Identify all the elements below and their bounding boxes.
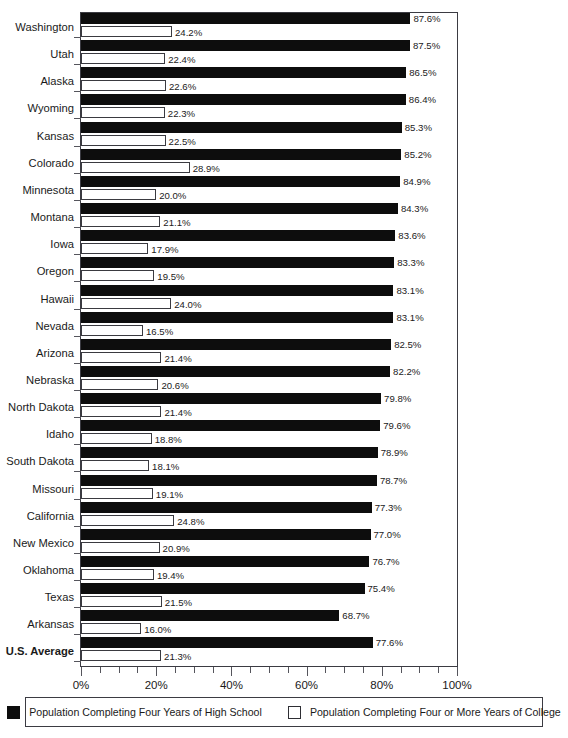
bar-value-high-school: 85.3% [405,122,432,133]
x-axis-minor-tick [401,667,402,673]
legend-label-high-school: Population Completing Four Years of High… [29,706,262,719]
category-label: Arizona [0,347,74,360]
bar-value-high-school: 86.4% [409,94,436,105]
category-label: Nebraska [0,374,74,387]
x-axis-minor-tick [363,667,364,673]
category-tick [74,363,81,364]
category-tick [74,499,81,500]
bar-value-high-school: 83.3% [397,257,424,268]
bar-college [81,298,171,309]
bar-high-school [81,339,391,350]
category-tick [74,661,81,662]
bar-high-school [81,285,393,296]
category-tick [74,37,81,38]
chart-row: Alaska86.5%22.6% [0,67,568,94]
chart-row: North Dakota79.8%21.4% [0,393,568,420]
bar-value-high-school: 83.1% [396,312,423,323]
category-tick [74,417,81,418]
bar-value-college: 22.4% [168,54,195,65]
bar-value-college: 16.5% [146,326,173,337]
x-axis-major-tick [231,667,232,676]
bar-college [81,650,161,661]
category-label: North Dakota [0,401,74,414]
chart-row: Minnesota84.9%20.0% [0,176,568,203]
x-axis-tick-label: 60% [295,678,318,692]
x-axis-minor-tick [325,667,326,673]
bar-high-school [81,556,369,567]
category-tick [74,200,81,201]
bar-high-school [81,94,406,105]
category-label: Nevada [0,320,74,333]
x-axis-minor-tick [137,667,138,673]
category-tick [74,634,81,635]
category-label: Alaska [0,75,74,88]
chart-row: Kansas85.3%22.5% [0,122,568,149]
bar-college [81,325,143,336]
bar-college [81,162,190,173]
category-tick [74,91,81,92]
category-tick [74,173,81,174]
category-label: Hawaii [0,293,74,306]
chart-row: California77.3%24.8% [0,502,568,529]
category-tick [74,444,81,445]
category-label: Missouri [0,483,74,496]
bar-high-school [81,420,380,431]
bar-high-school [81,366,390,377]
x-axis-minor-tick [288,667,289,673]
category-tick [74,309,81,310]
x-axis-tick-label: 40% [220,678,243,692]
chart-row: Idaho79.6%18.8% [0,420,568,447]
category-tick [74,281,81,282]
chart-row: Hawaii83.1%24.0% [0,285,568,312]
bar-high-school [81,149,401,160]
bar-college [81,433,152,444]
bar-value-college: 28.9% [193,163,220,174]
category-label: New Mexico [0,537,74,550]
x-axis-minor-tick [194,667,195,673]
bar-high-school [81,40,410,51]
bar-high-school [81,475,377,486]
bar-high-school [81,393,381,404]
chart-rows: Washington87.6%24.2%Utah87.5%22.4%Alaska… [0,0,568,738]
bar-value-college: 21.5% [165,597,192,608]
bar-value-high-school: 77.6% [376,637,403,648]
bar-college [81,53,165,64]
category-label: Minnesota [0,184,74,197]
category-label: Arkansas [0,618,74,631]
bar-college [81,135,166,146]
x-axis-major-tick [156,667,157,676]
bar-value-high-school: 78.7% [380,475,407,486]
hollow-square-icon [288,706,301,719]
category-label: Texas [0,591,74,604]
x-axis-minor-tick [119,667,120,673]
bar-high-school [81,529,371,540]
chart-row: U.S. Average77.6%21.3% [0,637,568,664]
bar-college [81,542,160,553]
chart-row: Utah87.5%22.4% [0,40,568,67]
bar-value-college: 24.2% [175,27,202,38]
bar-value-high-school: 87.6% [413,13,440,24]
bar-college [81,623,141,634]
bar-college [81,107,165,118]
bar-value-college: 22.3% [168,108,195,119]
bar-high-school [81,583,365,594]
chart-row: Washington87.6%24.2% [0,13,568,40]
category-label: Colorado [0,157,74,170]
bar-college [81,515,174,526]
x-axis-minor-tick [344,667,345,673]
bar-college [81,26,172,37]
bar-value-high-school: 77.3% [375,502,402,513]
bar-value-high-school: 76.7% [372,556,399,567]
x-axis-minor-tick [213,667,214,673]
bar-college [81,379,158,390]
category-tick [74,336,81,337]
chart-row: Montana84.3%21.1% [0,203,568,230]
bar-high-school [81,637,373,648]
category-label: Washington [0,21,74,34]
x-axis-major-tick [457,667,458,676]
bar-value-high-school: 79.8% [384,393,411,404]
category-label: California [0,510,74,523]
bar-value-high-school: 87.5% [413,40,440,51]
bar-college [81,596,162,607]
bar-high-school [81,13,410,24]
